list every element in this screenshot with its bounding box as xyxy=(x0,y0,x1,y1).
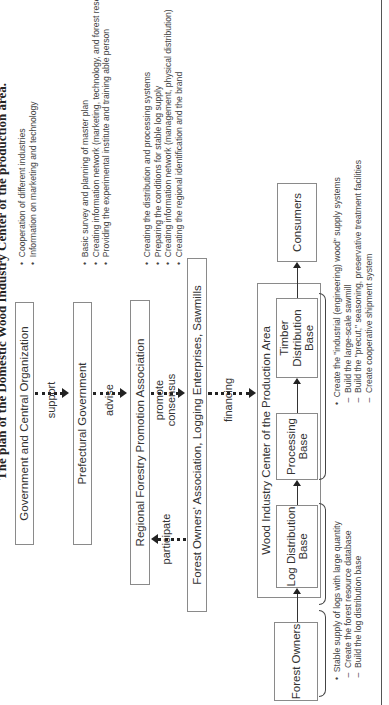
note-item: – Build the "precut," seasoning, preserv… xyxy=(353,160,364,405)
flow-line-owners-to-log xyxy=(297,594,298,622)
footer-divider xyxy=(381,0,382,705)
brace-supply xyxy=(319,610,326,697)
box-forest-owners: Forest Owners xyxy=(274,622,318,701)
box-prefectural: Prefectural Government xyxy=(73,302,92,545)
note-item: • Preparing the conditions for stable lo… xyxy=(153,9,164,265)
flow-arrowhead-icon xyxy=(293,480,301,486)
label-promote-consensus: promote consensus xyxy=(153,370,177,430)
note-item: • Creating information network (manageme… xyxy=(163,9,174,265)
flow-line-log-to-processing xyxy=(297,486,298,505)
notes-regional: • Creating the distribution and processi… xyxy=(142,9,184,265)
notes-prefectural: • Basic survey and planning of master pl… xyxy=(80,0,112,265)
notes-government: • Cooperation of different industries • … xyxy=(17,101,38,265)
note-item: • Providing the experimental institute a… xyxy=(101,0,112,265)
financing-arrowhead-icon xyxy=(249,388,256,398)
note-item: – Create the forest resource database xyxy=(343,521,354,680)
notes-supply: • Stable supply of logs with large quant… xyxy=(332,521,364,680)
promote-arrowhead-icon xyxy=(178,388,185,398)
note-item: – Build the log distribution base xyxy=(353,521,364,680)
note-item: • Creating the distribution and processi… xyxy=(142,9,153,265)
label-financing: financing xyxy=(222,370,234,430)
flow-line-timber-to-consumers xyxy=(297,268,298,298)
box-regional: Regional Forestry Promotion Association xyxy=(130,300,150,585)
label-participate: participate xyxy=(160,509,172,569)
note-item: • Information on marketing and technolog… xyxy=(28,101,39,265)
note-item: • Cooperation of different industries xyxy=(17,101,28,265)
figure-title: The plan of the Domestic Wood Industry C… xyxy=(0,83,10,480)
brace-supply-log xyxy=(319,503,326,605)
wood-center-label: Wood Industry Center of the Production A… xyxy=(260,326,273,555)
box-forest-owners-association: Forest Owners' Association, Logging Ente… xyxy=(187,258,207,612)
note-item: • Creating the regional identification a… xyxy=(174,9,185,265)
note-item: • Stable supply of logs with large quant… xyxy=(332,521,343,680)
brace-industrial xyxy=(319,293,326,480)
participate-arrowhead-icon xyxy=(151,534,158,544)
label-advise: advise xyxy=(103,370,115,430)
box-processing-base: Processing Base xyxy=(276,413,318,480)
flow-line-processing-to-timber xyxy=(297,384,298,413)
notes-industrial: • Create the "industrial (engineering) w… xyxy=(332,160,374,405)
box-government: Government and Central Organization xyxy=(15,302,34,545)
box-consumers: Consumers xyxy=(277,183,317,262)
flow-arrowhead-icon xyxy=(293,262,301,268)
box-log-distribution-base: Log Distribution Base xyxy=(276,505,318,588)
box-timber-distribution-base: Timber Distribution Base xyxy=(276,298,318,378)
note-item: • Creating information network (marketin… xyxy=(91,0,102,265)
note-item: • Basic survey and planning of master pl… xyxy=(80,0,91,265)
note-item: – Build the large-scale sawmill xyxy=(343,160,354,405)
advise-arrowhead-icon xyxy=(120,388,127,398)
diagram-canvas: The plan of the Domestic Wood Industry C… xyxy=(0,0,389,705)
flow-arrowhead-icon xyxy=(293,588,301,594)
note-item: – Create cooperative shipment system xyxy=(364,160,375,405)
flow-arrowhead-icon xyxy=(293,378,301,384)
support-arrowhead-icon xyxy=(62,388,69,398)
note-item: • Create the "industrial (engineering) w… xyxy=(332,160,343,405)
label-support: support xyxy=(45,370,57,430)
